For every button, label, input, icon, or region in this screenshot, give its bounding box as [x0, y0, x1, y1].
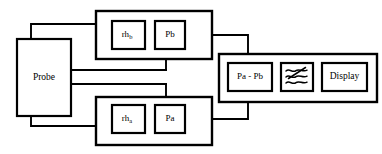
block-diagram: Probe rhb Pb rha Pa Pa - Pb Display — [0, 0, 382, 154]
wire-probe-to-rha — [31, 116, 104, 126]
rha-label-subscript: a — [129, 117, 132, 124]
pa-label: Pa — [166, 113, 175, 123]
probe-label: Probe — [33, 72, 55, 82]
diagram-canvas: Probe rhb Pb rha Pa Pa - Pb Display — [0, 0, 382, 154]
pb-label: Pb — [165, 29, 175, 39]
rhb-label-subscript: b — [129, 33, 132, 40]
wire-probe-to-rhb — [31, 24, 104, 39]
difference-label: Pa - Pb — [237, 71, 264, 81]
display-label: Display — [330, 71, 360, 81]
